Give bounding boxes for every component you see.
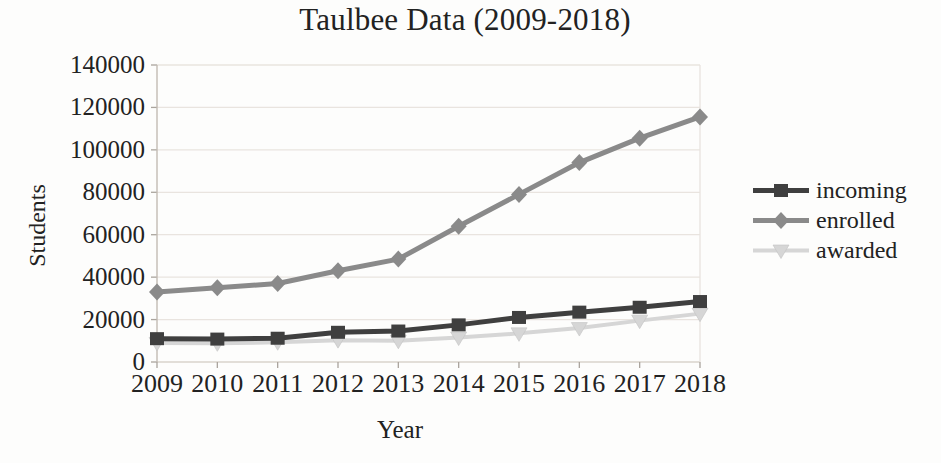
enrolled-series-marker-icon <box>752 209 810 232</box>
marker-enrolled-2014 <box>451 218 467 235</box>
y-tick-label: 60000 <box>83 221 146 248</box>
marker-incoming-2013 <box>391 325 405 338</box>
marker-incoming-2017 <box>633 301 647 314</box>
x-tick-label: 2014 <box>433 369 485 398</box>
awarded-series-marker-icon <box>752 239 810 262</box>
marker-incoming-2011 <box>271 332 285 345</box>
y-tick-label: 140000 <box>70 51 145 78</box>
x-tick-label: 2011 <box>252 369 303 398</box>
x-tick-label: 2015 <box>493 369 545 398</box>
chart-page: Taulbee Data (2009-2018) Students 020000… <box>0 0 941 463</box>
marker-incoming-2016 <box>572 306 586 319</box>
legend-label-enrolled: enrolled <box>816 209 895 232</box>
marker-enrolled-2010 <box>209 279 225 296</box>
marker-enrolled-2009 <box>149 283 165 300</box>
incoming-series-marker-icon <box>752 179 810 202</box>
marker-enrolled-2015 <box>511 186 527 203</box>
series-line-enrolled <box>157 117 700 292</box>
legend-marker-incoming <box>774 184 788 197</box>
series-line-incoming <box>157 302 700 340</box>
marker-incoming-2015 <box>512 311 526 324</box>
x-tick-label: 2018 <box>674 369 726 398</box>
y-tick-label: 100000 <box>70 136 145 163</box>
x-tick-label: 2009 <box>131 369 183 398</box>
x-tick-label: 2012 <box>312 369 364 398</box>
marker-incoming-2012 <box>331 326 345 339</box>
legend-marker-enrolled <box>773 212 789 229</box>
marker-enrolled-2013 <box>390 251 406 268</box>
legend-item-awarded: awarded <box>752 239 907 262</box>
x-tick-label: 2013 <box>372 369 424 398</box>
legend-label-awarded: awarded <box>816 239 897 262</box>
x-tick-label: 2016 <box>553 369 605 398</box>
x-tick-label: 2010 <box>191 369 243 398</box>
legend-item-enrolled: enrolled <box>752 209 907 232</box>
legend-label-incoming: incoming <box>816 179 907 202</box>
y-tick-label: 80000 <box>83 178 146 205</box>
x-tick-label: 2017 <box>614 369 666 398</box>
marker-incoming-2014 <box>452 318 466 331</box>
y-tick-label: 20000 <box>83 306 146 333</box>
marker-enrolled-2018 <box>692 108 708 125</box>
y-tick-label: 40000 <box>83 263 146 290</box>
marker-incoming-2018 <box>693 295 707 308</box>
marker-enrolled-2016 <box>571 154 587 171</box>
legend: incoming enrolled awarded <box>752 179 907 262</box>
marker-enrolled-2017 <box>632 130 648 147</box>
marker-incoming-2010 <box>210 333 224 346</box>
x-axis-title: Year <box>340 416 460 444</box>
marker-incoming-2009 <box>150 332 164 345</box>
y-tick-label: 120000 <box>70 93 145 120</box>
legend-item-incoming: incoming <box>752 179 907 202</box>
